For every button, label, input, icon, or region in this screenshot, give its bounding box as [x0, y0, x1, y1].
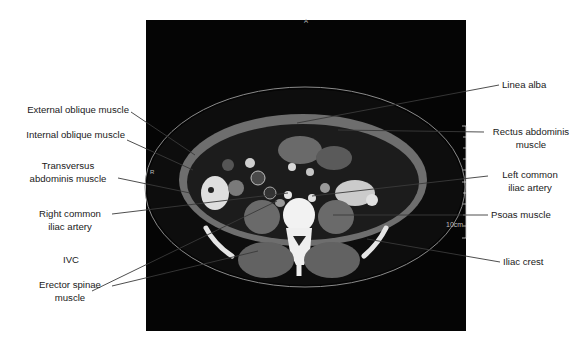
anatomy-figure: A R 10cm External oblique muscle Interna… — [0, 0, 581, 344]
right-erector-spinae — [238, 242, 294, 278]
anterior-mark: A — [304, 18, 308, 24]
scale-label: 10cm — [446, 221, 463, 228]
label-left-common-iliac: Left common iliac artery — [490, 169, 570, 194]
label-ivc: IVC — [56, 254, 86, 267]
label-external-oblique: External oblique muscle — [16, 104, 129, 117]
left-erector-spinae — [304, 242, 360, 278]
ivc — [275, 199, 285, 207]
label-rectus-abdominis: Rectus abdominis muscle — [486, 126, 576, 151]
label-psoas: Psoas muscle — [491, 209, 551, 222]
label-internal-oblique: Internal oblique muscle — [16, 129, 125, 142]
label-linea-alba: Linea alba — [502, 79, 546, 92]
right-mark: R — [150, 169, 154, 175]
label-erector-spinae: Erector spinae muscle — [30, 279, 110, 304]
right-common-iliac-artery — [284, 191, 292, 199]
right-psoas — [244, 200, 280, 234]
label-iliac-crest: Iliac crest — [503, 256, 544, 269]
left-common-iliac-artery — [308, 194, 316, 202]
label-right-common-iliac: Right common iliac artery — [30, 208, 110, 233]
label-transversus: Transversus abdominis muscle — [20, 160, 116, 185]
vertebral-body — [283, 198, 315, 232]
left-psoas — [318, 200, 354, 234]
